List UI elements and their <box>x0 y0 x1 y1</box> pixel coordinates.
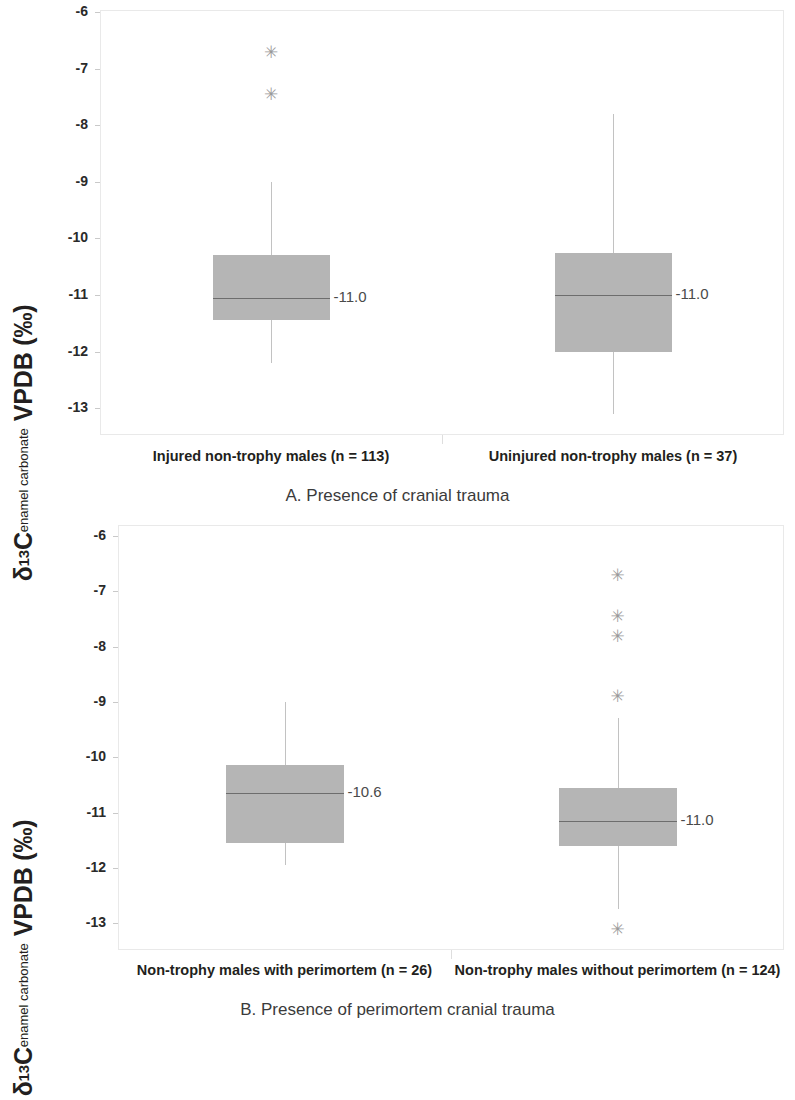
outlier-marker: ✳ <box>610 566 624 583</box>
y-tick-mark <box>95 295 100 296</box>
panel-b-caption: B. Presence of perimortem cranial trauma <box>0 1000 795 1020</box>
y-tick-mark <box>113 813 118 814</box>
y-tick-label: -11 <box>48 286 88 302</box>
median-line <box>213 298 330 299</box>
y-tick-label: -6 <box>48 3 88 19</box>
y-tick-mark <box>95 408 100 409</box>
y-tick-label: -10 <box>48 229 88 245</box>
y-tick-label: -11 <box>66 804 106 820</box>
outlier-marker: ✳ <box>264 86 278 103</box>
y-tick-mark <box>113 702 118 703</box>
outlier-marker: ✳ <box>610 627 624 644</box>
y-tick-mark <box>95 12 100 13</box>
y-tick-label: -8 <box>48 116 88 132</box>
plot-area-a <box>100 10 784 435</box>
panel-a-caption: A. Presence of cranial trauma <box>0 486 795 506</box>
median-line <box>555 295 672 296</box>
outlier-marker: ✳ <box>610 688 624 705</box>
y-tick-mark <box>95 238 100 239</box>
outlier-marker: ✳ <box>264 43 278 60</box>
box-iqr <box>226 765 344 842</box>
y-axis-delta: δ <box>9 1081 38 1096</box>
panel-a-cranial-trauma: δ13Cenamel carbonateVPDB (‰) -6-7-8-9-10… <box>0 0 795 514</box>
y-tick-label: -12 <box>48 343 88 359</box>
y-axis-title: δ13Cenamel carbonateVPDB (‰) <box>0 738 46 1100</box>
outlier-marker: ✳ <box>610 608 624 625</box>
median-value-label: -11.0 <box>681 811 714 828</box>
y-tick-label: -7 <box>48 60 88 76</box>
y-tick-label: -9 <box>48 173 88 189</box>
y-tick-label: -9 <box>66 693 106 709</box>
x-category-label: Non-trophy males without perimortem (n =… <box>421 962 795 978</box>
y-tick-label: -13 <box>66 914 106 930</box>
median-value-label: -11.0 <box>676 285 709 302</box>
y-tick-mark <box>95 182 100 183</box>
y-tick-label: -10 <box>66 748 106 764</box>
y-tick-label: -12 <box>66 859 106 875</box>
y-tick-mark <box>95 352 100 353</box>
y-tick-mark <box>113 757 118 758</box>
y-axis-superscript: 13 <box>15 1065 32 1081</box>
y-axis-scale: VPDB (‰) <box>9 819 38 935</box>
y-tick-mark <box>95 69 100 70</box>
category-separator-tick <box>442 435 443 444</box>
panel-b-perimortem-trauma: δ13Cenamel carbonateVPDB (‰) -6-7-8-9-10… <box>0 514 795 1028</box>
y-axis-subscript: enamel carbonate <box>16 943 31 1047</box>
y-tick-mark <box>113 591 118 592</box>
y-tick-label: -7 <box>66 582 106 598</box>
y-axis-scale: VPDB (‰) <box>9 304 38 420</box>
y-tick-mark <box>113 536 118 537</box>
y-tick-mark <box>113 923 118 924</box>
y-tick-mark <box>113 868 118 869</box>
median-line <box>226 793 344 794</box>
median-line <box>559 821 677 822</box>
y-tick-label: -6 <box>66 527 106 543</box>
y-tick-label: -8 <box>66 638 106 654</box>
x-category-label: Uninjured non-trophy males (n = 37) <box>412 448 795 464</box>
category-separator-tick <box>451 950 452 959</box>
median-value-label: -11.0 <box>334 288 367 305</box>
box-iqr <box>213 255 330 320</box>
plot-area-b <box>118 525 784 950</box>
y-axis-element: C <box>9 1047 38 1065</box>
y-tick-mark <box>113 647 118 648</box>
outlier-marker: ✳ <box>610 920 624 937</box>
box-iqr <box>559 788 677 846</box>
y-tick-label: -13 <box>48 399 88 415</box>
box-iqr <box>555 253 672 352</box>
y-tick-mark <box>95 125 100 126</box>
median-value-label: -10.6 <box>348 783 382 800</box>
